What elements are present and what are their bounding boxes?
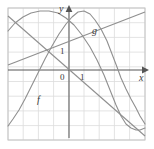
line-up bbox=[8, 12, 145, 65]
y-axis-label: y bbox=[59, 4, 63, 14]
x-axis-label: x bbox=[139, 73, 143, 83]
curve-label-f: f bbox=[37, 95, 40, 105]
x-unit-label: 1 bbox=[80, 73, 85, 82]
origin-label: 0 bbox=[60, 73, 65, 82]
line-down bbox=[8, 16, 145, 136]
plot-canvas bbox=[0, 0, 154, 149]
function-graph-figure: y x 0 1 1 g f bbox=[0, 0, 154, 149]
curve-label-g: g bbox=[92, 26, 97, 36]
y-unit-label: 1 bbox=[60, 47, 65, 56]
